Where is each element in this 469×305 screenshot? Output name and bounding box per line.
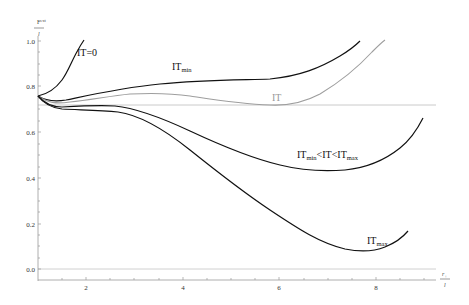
label-it-min: ITmin	[172, 61, 192, 73]
chart: 1.0 0.8 0.6 0.4 0.2 0.0 Fext l	[0, 0, 469, 305]
y-label-denominator: l	[38, 31, 40, 37]
label-it-zero: IT=0	[77, 47, 97, 58]
x-axis: 2 4 6 8	[38, 277, 436, 292]
x-axis-label: r+ l	[440, 271, 450, 288]
label-it: IT	[272, 92, 281, 103]
x-label-denominator: l	[444, 282, 446, 288]
y-axis: 1.0 0.8 0.6 0.4 0.2 0.0	[26, 36, 41, 281]
y-axis-label: Fext l	[34, 18, 47, 37]
curve-it-max	[38, 96, 408, 251]
y-tick-label: 1.0	[26, 38, 35, 46]
x-tick-label: 2	[84, 284, 88, 292]
y-tick-label: 0.8	[26, 83, 35, 91]
y-tick-label: 0.2	[26, 221, 35, 229]
label-it-max: ITmax	[367, 235, 388, 247]
y-tick-label: 0.6	[26, 129, 35, 137]
x-tick-label: 6	[277, 284, 281, 292]
label-it-between: ITmin<IT<ITmax	[297, 149, 359, 161]
curve-it-between	[38, 96, 423, 171]
y-label-numerator: Fext	[37, 18, 47, 25]
x-tick-label: 8	[374, 284, 378, 292]
y-tick-label: 0.0	[26, 266, 35, 274]
x-label-numerator: r+	[442, 271, 447, 279]
x-tick-label: 4	[181, 284, 185, 292]
y-tick-label: 0.4	[26, 175, 35, 183]
